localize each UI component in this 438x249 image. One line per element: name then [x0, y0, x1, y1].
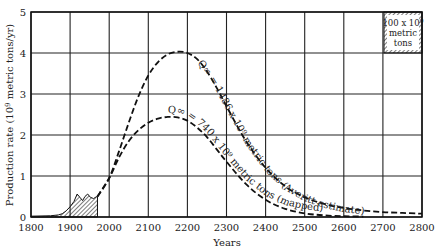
grid-lines: [31, 12, 422, 217]
svg-text:2100: 2100: [136, 222, 161, 233]
y-axis-label: Production rate (109 metric tons/yr): [4, 24, 15, 207]
legend-box-line2: metric: [389, 28, 417, 38]
svg-text:2000: 2000: [96, 222, 121, 233]
svg-text:2400: 2400: [253, 222, 278, 233]
scale-legend-box: 100 x 109 metric tons: [382, 12, 423, 53]
svg-text:0: 0: [20, 212, 26, 223]
svg-text:2700: 2700: [370, 222, 395, 233]
legend-box-line1: 100 x 109: [382, 17, 423, 28]
svg-text:1: 1: [20, 171, 26, 182]
legend-box-line3: tons: [394, 38, 412, 48]
svg-text:3: 3: [20, 89, 26, 100]
x-axis-label: Years: [212, 237, 241, 248]
svg-text:2600: 2600: [331, 222, 356, 233]
svg-text:4: 4: [20, 48, 26, 59]
svg-text:2300: 2300: [214, 222, 239, 233]
svg-text:2500: 2500: [292, 222, 317, 233]
historical-production-area: [31, 194, 97, 217]
svg-text:2800: 2800: [409, 222, 434, 233]
svg-text:2200: 2200: [175, 222, 200, 233]
svg-text:1800: 1800: [18, 222, 43, 233]
svg-text:5: 5: [20, 7, 26, 18]
production-rate-chart: 1800190020002100220023002400250026002700…: [0, 0, 438, 249]
svg-text:2: 2: [20, 130, 26, 141]
svg-text:1900: 1900: [57, 222, 82, 233]
